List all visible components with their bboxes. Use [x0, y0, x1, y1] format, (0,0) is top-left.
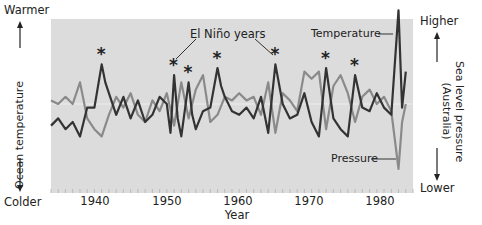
- arrow-up-icon: [17, 21, 23, 28]
- x-tick-1980: 1980: [365, 194, 394, 208]
- arrow-down-icon: [434, 174, 440, 181]
- ocean-temperature-label: Ocean temperature: [13, 60, 27, 210]
- sea-level-pressure-label: Sea level pressure (Australia): [440, 61, 466, 161]
- pressure-annotation: Pressure: [331, 152, 378, 165]
- x-tick-1950: 1950: [152, 194, 181, 208]
- asterisk-icon: *: [350, 55, 359, 75]
- asterisk-icon: *: [97, 44, 106, 64]
- arrow-up-icon: [434, 32, 440, 39]
- x-tick-1970: 1970: [294, 194, 323, 208]
- asterisk-icon: *: [184, 62, 193, 82]
- australia-text: (Australia): [440, 61, 453, 161]
- sea-level-pressure-text: Sea level pressure: [453, 61, 466, 161]
- asterisk-icon: *: [270, 44, 279, 64]
- higher-label: Higher: [420, 14, 458, 28]
- x-tick-1940: 1940: [80, 194, 109, 208]
- x-axis-title: Year: [225, 208, 249, 222]
- warmer-label: Warmer: [4, 3, 49, 17]
- asterisk-icon: *: [169, 55, 178, 75]
- x-tick-1960: 1960: [223, 194, 252, 208]
- el-nino-annotation: El Niño years: [190, 27, 266, 41]
- lower-label: Lower: [420, 181, 454, 195]
- asterisk-icon: *: [321, 48, 330, 68]
- temperature-annotation: Temperature: [311, 27, 381, 40]
- asterisk-icon: *: [213, 48, 222, 68]
